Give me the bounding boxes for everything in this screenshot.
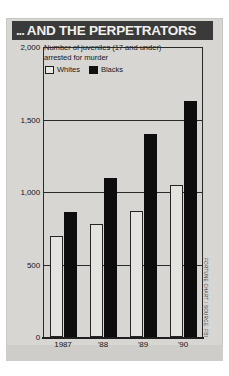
y-axis-tick-label: 0 (36, 333, 40, 342)
x-axis-tick-label: '90 (178, 340, 188, 349)
y-axis-tick-label: 1,000 (20, 188, 40, 197)
bar-whites-88 (90, 224, 103, 337)
x-axis-tick-label: '88 (98, 340, 108, 349)
x-axis-tick-label: '89 (138, 340, 148, 349)
gridline (43, 47, 203, 48)
bar-blacks-88 (104, 178, 117, 338)
plot-area: 05001,0001,5002,0001987'88'89'90 (43, 47, 203, 337)
y-axis-tick-label: 1,500 (20, 115, 40, 124)
bar-whites-1987 (50, 236, 63, 338)
y-axis-tick-label: 500 (27, 260, 40, 269)
page-title: AND THE PERPETRATORS (24, 24, 197, 38)
chart-page: ... AND THE PERPETRATORS Number of juven… (0, 0, 229, 376)
scan-bottom-margin (6, 345, 223, 361)
x-axis-tick-label: 1987 (54, 340, 71, 349)
bar-blacks-90 (184, 101, 197, 337)
bar-blacks-89 (144, 134, 157, 337)
bar-blacks-1987 (64, 212, 77, 337)
bar-whites-90 (170, 185, 183, 337)
y-axis-tick-label: 2,000 (20, 43, 40, 52)
x-axis-line (42, 337, 204, 339)
chart-title-banner: ... AND THE PERPETRATORS (12, 21, 213, 40)
title-leading-dots: ... (12, 24, 24, 37)
gridline (43, 120, 203, 121)
bar-whites-89 (130, 211, 143, 337)
source-credit: FORTUNE CHART / SOURCE: FBI (203, 258, 208, 337)
